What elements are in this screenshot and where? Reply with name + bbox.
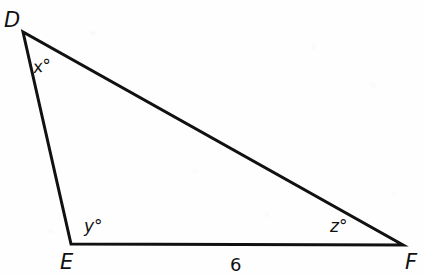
triangle-shape xyxy=(0,0,424,276)
side-length-label-ef: 6 xyxy=(230,256,241,274)
angle-label-x: x° xyxy=(32,57,53,76)
angle-label-z: z° xyxy=(330,218,347,235)
triangle-def-outline xyxy=(23,32,403,245)
vertex-label-e: E xyxy=(60,252,73,273)
vertex-label-d: D xyxy=(4,10,20,31)
geometry-figure: D E F x° y° z° 6 xyxy=(0,0,424,276)
vertex-label-f: F xyxy=(405,252,417,273)
angle-label-y: y° xyxy=(84,218,103,235)
